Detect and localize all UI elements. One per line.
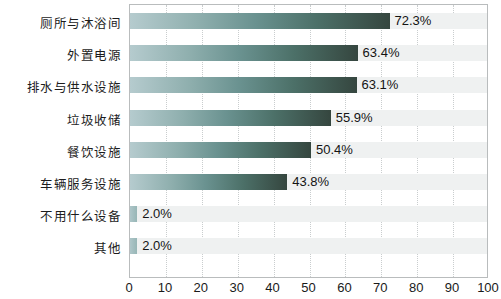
category-label: 其他 — [0, 238, 121, 257]
category-label: 车辆服务设施 — [0, 174, 121, 193]
x-tick-label: 100 — [468, 280, 501, 295]
x-tick-label: 40 — [253, 280, 293, 295]
bar — [130, 142, 311, 158]
x-tick-label: 0 — [109, 280, 149, 295]
bar — [130, 13, 390, 29]
bar — [130, 45, 358, 61]
horizontal-bar-chart: 厕所与沐浴间外置电源排水与供水设施垃圾收储餐饮设施车辆服务设施不用什么设备其他 … — [0, 0, 501, 299]
category-label: 垃圾收储 — [0, 110, 121, 129]
x-tick-label: 80 — [396, 280, 436, 295]
value-label: 63.1% — [362, 77, 399, 92]
bar — [130, 206, 137, 222]
bar — [130, 174, 287, 190]
bar — [130, 238, 137, 254]
x-tick-label: 60 — [324, 280, 364, 295]
bar — [130, 77, 357, 93]
category-label: 外置电源 — [0, 45, 121, 64]
value-label: 72.3% — [395, 13, 432, 28]
category-label: 不用什么设备 — [0, 206, 121, 225]
category-label: 餐饮设施 — [0, 142, 121, 161]
plot-area — [129, 4, 488, 278]
value-label: 63.4% — [363, 45, 400, 60]
x-tick-label: 10 — [145, 280, 185, 295]
value-label: 43.8% — [292, 174, 329, 189]
bar-track — [130, 206, 487, 222]
value-label: 50.4% — [316, 142, 353, 157]
bar — [130, 110, 331, 126]
category-label: 排水与供水设施 — [0, 77, 121, 96]
value-label: 2.0% — [142, 206, 172, 221]
x-tick-label: 30 — [217, 280, 257, 295]
x-tick-label: 50 — [289, 280, 329, 295]
value-label: 2.0% — [142, 238, 172, 253]
x-tick-label: 90 — [432, 280, 472, 295]
x-tick-label: 20 — [181, 280, 221, 295]
bar-track — [130, 238, 487, 254]
category-label: 厕所与沐浴间 — [0, 13, 121, 32]
value-label: 55.9% — [336, 110, 373, 125]
x-tick-label: 70 — [360, 280, 400, 295]
